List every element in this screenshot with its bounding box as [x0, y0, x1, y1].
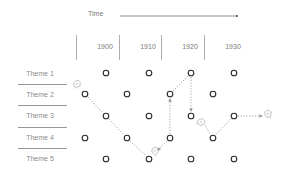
- theme-year-nodes: [82, 70, 237, 162]
- snail-icon: [264, 110, 271, 118]
- snail-icons: [72, 80, 271, 156]
- node-theme4-d: [210, 135, 216, 141]
- node-theme5-1910: [146, 156, 152, 162]
- node-theme5-1920: [188, 156, 194, 162]
- node-theme3-1900: [103, 113, 109, 119]
- node-theme4-a: [82, 135, 88, 141]
- theme-dividers: [18, 85, 67, 149]
- node-theme2-b: [124, 91, 130, 97]
- node-theme1-1900: [103, 70, 109, 76]
- node-theme3-1920: [188, 113, 194, 119]
- node-theme4-b: [124, 135, 130, 141]
- node-theme2-a: [82, 91, 88, 97]
- snail-icon: [72, 80, 81, 88]
- node-theme3-1930: [231, 113, 237, 119]
- snail-icon: [196, 117, 206, 126]
- node-theme1-1910: [146, 70, 152, 76]
- node-theme1-1920: [188, 70, 194, 76]
- node-theme5-1930: [231, 156, 237, 162]
- node-theme5-1900: [103, 156, 109, 162]
- node-theme4-c: [167, 135, 173, 141]
- year-dividers: [77, 35, 205, 60]
- snail-icon: [150, 146, 160, 156]
- theme-timeline-diagram: [0, 0, 281, 177]
- node-theme2-c: [167, 91, 173, 97]
- node-theme1-1930: [231, 70, 237, 76]
- node-theme3-1910: [146, 113, 152, 119]
- node-theme2-d: [210, 91, 216, 97]
